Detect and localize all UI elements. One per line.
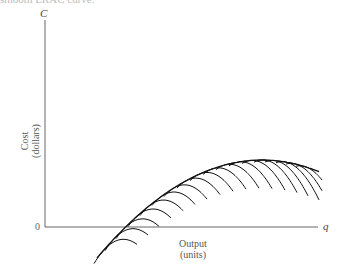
short-run-cost-curve (94, 239, 137, 263)
x-axis-title-line2: (units) (163, 249, 223, 260)
x-axis-title-line1: Output (163, 238, 223, 249)
short-run-cost-curve (286, 163, 322, 190)
y-axis-title-line1: Cost (19, 111, 30, 171)
short-run-cost-curve (276, 162, 319, 200)
chart-canvas (0, 0, 341, 274)
y-axis-symbol: C (40, 7, 47, 19)
y-axis-title: Cost (dollars) (19, 111, 41, 171)
short-run-cost-curve (254, 160, 297, 193)
x-axis-title: Output (units) (163, 238, 223, 260)
x-axis-symbol: q (323, 220, 329, 232)
short-run-cost-curve (140, 200, 183, 216)
short-run-cost-curve (229, 162, 272, 189)
origin-label: 0 (35, 221, 40, 232)
y-axis-title-line2: (dollars) (30, 111, 41, 171)
short-run-cost-curve (177, 178, 220, 195)
short-run-cost-curve (152, 192, 195, 206)
short-run-cost-curve (203, 168, 246, 189)
